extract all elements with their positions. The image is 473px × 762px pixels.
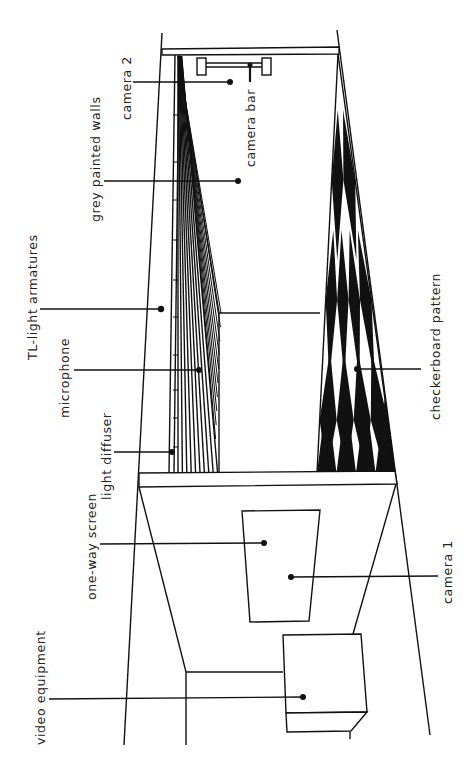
dot-camera-2 [227, 79, 233, 85]
label-one-way-screen: one-way screen [84, 493, 99, 600]
checkerboard-diamond [337, 230, 348, 380]
label-tl-light-armatures: TL-light armatures [25, 234, 40, 361]
one-way-screen-wall-band [139, 471, 397, 487]
right-outer-wall-line [337, 30, 430, 735]
camera-bar-end-mount [262, 58, 271, 75]
dot-one-way-screen [261, 540, 267, 546]
tl-light-armatures [178, 56, 221, 473]
checkerboard-wall [317, 54, 395, 473]
dot-light-diffuser [169, 449, 175, 455]
label-camera-bar: camera bar [243, 89, 258, 167]
checkerboard-pattern [317, 110, 395, 473]
dot-video-equipment [300, 694, 306, 700]
camera-2-body [197, 58, 206, 75]
leader-one-way-screen [100, 543, 264, 544]
label-microphone: microphone [57, 338, 72, 418]
dot-checkerboard-pattern [354, 366, 360, 372]
top-wall-beam [162, 47, 339, 55]
label-camera-2: camera 2 [119, 56, 134, 120]
camera-bar-assembly [197, 58, 271, 82]
one-way-screen-window [242, 510, 320, 622]
labels: camera 2 camera bar grey painted walls T… [25, 56, 455, 745]
video-equipment-cabinet [283, 634, 367, 739]
dot-microphone [196, 367, 202, 373]
leader-video-equipment [49, 697, 303, 699]
observation-room-right-diagonal [353, 484, 396, 634]
video-equipment-base [286, 712, 367, 732]
label-checkerboard-pattern: checkerboard pattern [428, 273, 443, 420]
dot-tl-light-armatures [158, 306, 164, 312]
video-equipment-front [283, 634, 367, 713]
observation-room-left-diagonal [139, 487, 186, 672]
label-video-equipment: video equipment [33, 630, 48, 745]
leader-camera-1 [291, 576, 438, 577]
dot-grey-painted-walls [235, 178, 241, 184]
label-camera-1: camera 1 [440, 540, 455, 604]
label-grey-painted-walls: grey painted walls [88, 97, 103, 223]
left-outer-wall-line [124, 33, 162, 745]
room-diagram: camera 2 camera bar grey painted walls T… [0, 0, 473, 762]
dot-camera-1 [288, 574, 294, 580]
label-light-diffuser: light diffuser [99, 412, 114, 500]
left-wall-lighting [169, 55, 221, 473]
